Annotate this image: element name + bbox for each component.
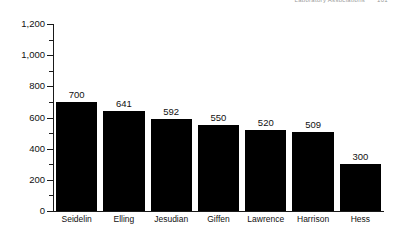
y-axis-tick-label: 400 [1,144,45,154]
x-axis-category-label: Seidelin [53,215,100,224]
bar-value-label: 700 [53,90,100,100]
x-axis-category-label: Elling [100,215,147,224]
bar [340,164,381,211]
bar-value-label: 641 [100,99,147,109]
bar-slot: 300 [337,24,384,211]
x-axis-line [53,211,384,212]
bar-slot: 592 [148,24,195,211]
bar-value-label: 550 [195,113,242,123]
bar-value-label: 300 [337,152,384,162]
x-axis-category-label: Lawrence [242,215,289,224]
bar-slot: 700 [53,24,100,211]
bar-slot: 641 [100,24,147,211]
bar-value-label: 520 [242,118,289,128]
chart-page: Laboratory Associations 101 020040060080… [0,0,396,238]
y-axis-tick-label: 800 [1,81,45,91]
y-axis-tick-label: 0 [1,206,45,216]
x-axis-category-label: Harrison [289,215,336,224]
bar [103,111,144,211]
y-axis-tick-label: 600 [1,113,45,123]
x-axis-category-label: Hess [337,215,384,224]
y-axis-tick-label: 1,000 [1,50,45,60]
y-axis-tick-major [47,211,54,212]
bar-series: 700641592550520509300 [53,24,384,211]
bar-slot: 520 [242,24,289,211]
bar-slot: 509 [289,24,336,211]
bar [151,119,192,211]
x-axis-category-label: Giffen [195,215,242,224]
y-axis-tick-label: 1,200 [1,19,45,29]
bar [292,132,333,211]
bar [245,130,286,211]
bar [198,125,239,211]
y-axis-tick-label: 200 [1,175,45,185]
bar-chart: 02004006008001,0001,200 7006415925505205… [0,0,396,238]
bar-value-label: 509 [289,120,336,130]
bar [56,102,97,211]
x-axis-category-label: Jesudian [148,215,195,224]
bar-slot: 550 [195,24,242,211]
bar-value-label: 592 [148,107,195,117]
